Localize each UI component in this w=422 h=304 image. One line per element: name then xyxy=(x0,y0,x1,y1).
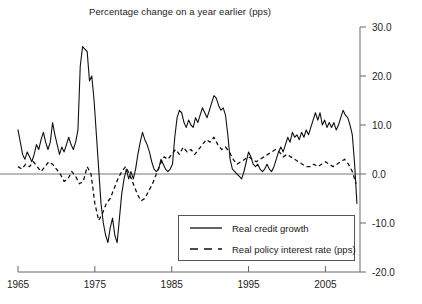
x-tick-label: 1985 xyxy=(161,279,184,290)
y-tick-label: -10.0 xyxy=(372,218,395,229)
x-tick-label: 1995 xyxy=(237,279,260,290)
y-tick-label: 30.0 xyxy=(372,22,392,33)
x-tick-label: 1965 xyxy=(7,279,30,290)
y-tick-label: 10.0 xyxy=(372,120,392,131)
series-real-policy-interest-rate xyxy=(18,137,356,220)
y-axis-ticks: 30.020.010.00.0-10.0-20.0 xyxy=(360,22,395,278)
chart-figure: Percentage change on a year earlier (pps… xyxy=(0,0,422,304)
x-tick-label: 1975 xyxy=(84,279,107,290)
y-tick-label: 0.0 xyxy=(372,169,386,180)
x-axis-ticks: 19651975198519952005 xyxy=(7,266,337,290)
y-tick-label: 20.0 xyxy=(372,71,392,82)
chart-plot-area: 30.020.010.00.0-10.0-20.0 19651975198519… xyxy=(0,0,422,304)
chart-legend: Real credit growth Real policy interest … xyxy=(179,216,356,261)
y-tick-label: -20.0 xyxy=(372,267,395,278)
x-tick-label: 2005 xyxy=(314,279,337,290)
legend-label-real-credit-growth: Real credit growth xyxy=(232,223,309,234)
series-real-credit-growth xyxy=(18,47,357,243)
legend-label-real-policy-interest-rate: Real policy interest rate (pps) xyxy=(232,244,356,255)
